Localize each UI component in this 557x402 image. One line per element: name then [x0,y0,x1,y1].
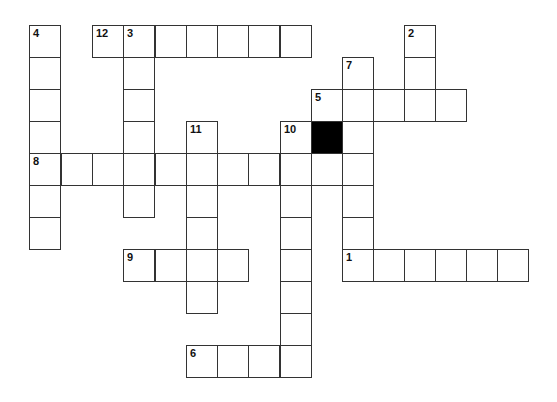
crossword-cell[interactable] [404,57,436,90]
crossword-cell[interactable] [280,25,312,58]
crossword-cell[interactable]: 6 [186,345,218,378]
crossword-cell[interactable] [155,153,187,186]
block-cell [311,121,343,154]
crossword-cell[interactable] [186,185,218,218]
crossword-cell[interactable] [311,153,343,186]
crossword-cell[interactable] [248,345,280,378]
clue-number: 5 [315,92,321,103]
clue-number: 12 [96,28,108,39]
crossword-cell[interactable] [186,25,218,58]
crossword-cell[interactable] [29,217,61,250]
crossword-cell[interactable] [342,153,374,186]
crossword-cell[interactable] [373,89,405,122]
crossword-cell[interactable] [342,217,374,250]
crossword-cell[interactable] [342,121,374,154]
crossword-cell[interactable]: 12 [92,25,124,58]
crossword-cell[interactable]: 2 [404,25,436,58]
crossword-cell[interactable] [404,89,436,122]
clue-number: 10 [284,124,296,135]
crossword-cell[interactable] [186,153,218,186]
crossword-cell[interactable]: 1 [342,249,374,282]
crossword-cell[interactable]: 8 [29,153,61,186]
crossword-cell[interactable] [123,89,155,122]
crossword-cell[interactable] [186,217,218,250]
crossword-cell[interactable] [217,153,249,186]
clue-number: 8 [33,156,39,167]
crossword-cell[interactable] [186,249,218,282]
crossword-cell[interactable] [435,89,467,122]
crossword-cell[interactable] [248,153,280,186]
crossword-cell[interactable] [123,121,155,154]
crossword-cell[interactable] [373,249,405,282]
crossword-cell[interactable] [404,249,436,282]
crossword-cell[interactable] [123,153,155,186]
clue-number: 11 [190,124,202,135]
crossword-cell[interactable] [466,249,498,282]
crossword-cell[interactable] [29,57,61,90]
clue-number: 2 [408,28,414,39]
crossword-cell[interactable] [61,153,93,186]
crossword-cell[interactable] [92,153,124,186]
crossword-cell[interactable] [217,345,249,378]
clue-number: 1 [346,252,352,263]
crossword-cell[interactable]: 4 [29,25,61,58]
crossword-cell[interactable] [280,217,312,250]
crossword-cell[interactable] [123,185,155,218]
clue-number: 6 [190,348,196,359]
crossword-cell[interactable] [280,313,312,346]
crossword-cell[interactable] [29,185,61,218]
crossword-cell[interactable] [123,57,155,90]
crossword-cell[interactable]: 7 [342,57,374,90]
crossword-cell[interactable] [280,185,312,218]
clue-number: 7 [346,60,352,71]
crossword-cell[interactable]: 11 [186,121,218,154]
crossword-cell[interactable] [155,25,187,58]
crossword-grid: 123485679101112 [0,0,557,402]
clue-number: 4 [33,28,39,39]
crossword-cell[interactable] [280,249,312,282]
crossword-cell[interactable] [435,249,467,282]
crossword-cell[interactable] [186,281,218,314]
crossword-cell[interactable] [280,281,312,314]
crossword-cell[interactable] [29,121,61,154]
crossword-cell[interactable] [29,89,61,122]
crossword-cell[interactable] [248,25,280,58]
crossword-cell[interactable] [342,89,374,122]
crossword-cell[interactable] [155,249,187,282]
crossword-cell[interactable] [342,185,374,218]
crossword-cell[interactable]: 9 [123,249,155,282]
crossword-cell[interactable] [280,153,312,186]
crossword-cell[interactable]: 3 [123,25,155,58]
crossword-cell[interactable]: 5 [311,89,343,122]
clue-number: 9 [127,252,133,263]
crossword-cell[interactable] [497,249,529,282]
crossword-cell[interactable]: 10 [280,121,312,154]
crossword-cell[interactable] [280,345,312,378]
crossword-cell[interactable] [217,25,249,58]
crossword-cell[interactable] [217,249,249,282]
clue-number: 3 [127,28,133,39]
